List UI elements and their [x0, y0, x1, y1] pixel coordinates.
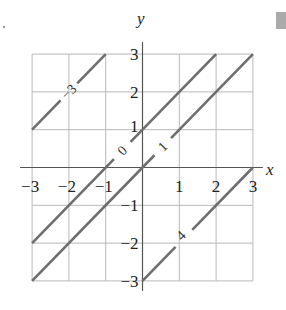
level-line-2 — [171, 54, 253, 138]
x-tick-label: 2 — [212, 177, 221, 196]
y-tick-label: −3 — [120, 272, 138, 291]
level-line-1 — [131, 54, 217, 142]
contour-chart: −3014 −3−2−1123321−1−2−3 x y — [0, 0, 286, 310]
y-tick-label: 3 — [130, 45, 139, 64]
x-tick-label: −1 — [95, 177, 113, 196]
level-line-2 — [32, 155, 154, 281]
y-tick-label: −2 — [120, 234, 138, 253]
level-line-3 — [192, 168, 253, 230]
corner-dot — [3, 26, 5, 28]
level-line-3 — [143, 247, 176, 281]
x-tick-label: 3 — [249, 177, 258, 196]
level-line-1 — [32, 159, 114, 243]
y-tick-label: 1 — [130, 117, 139, 136]
x-tick-label: −2 — [58, 177, 76, 196]
level-label: 4 — [173, 228, 189, 244]
level-line-0 — [32, 100, 60, 129]
level-line-0 — [77, 54, 105, 83]
x-tick-label: 1 — [175, 177, 184, 196]
level-label: 1 — [155, 139, 171, 155]
level-label: −3 — [58, 81, 79, 102]
x-axis-label: x — [265, 160, 274, 179]
y-tick-label: −1 — [120, 196, 138, 215]
x-tick-label: −3 — [21, 177, 39, 196]
y-axis-label: y — [135, 9, 145, 28]
level-label: 0 — [114, 143, 130, 159]
corner-square — [276, 12, 286, 29]
y-tick-label: 2 — [130, 83, 139, 102]
